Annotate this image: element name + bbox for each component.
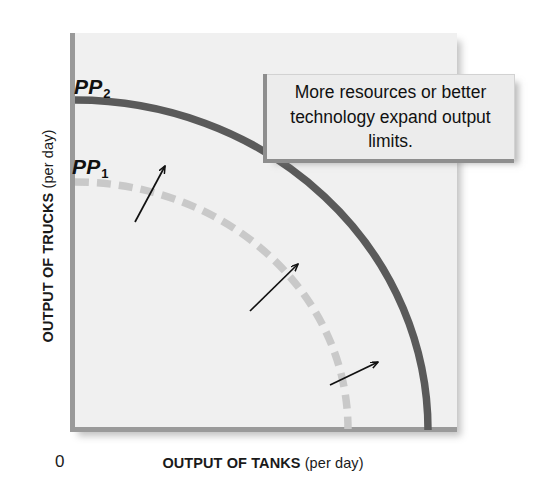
x-axis-unit: (per day) — [305, 455, 364, 471]
curve-pp1 — [75, 182, 348, 429]
ppf-figure: PP2 PP1 More resources or better technol… — [0, 0, 550, 504]
callout-text: More resources or better technology expa… — [267, 80, 514, 155]
x-axis-name: OUTPUT OF TANKS — [162, 455, 300, 471]
y-axis-name: OUTPUT OF TRUCKS — [40, 193, 56, 343]
x-axis-title: OUTPUT OF TANKS (per day) — [133, 455, 393, 471]
origin-label: 0 — [55, 452, 64, 472]
shift-arrow-upper — [135, 166, 165, 222]
shift-arrow-middle — [250, 264, 298, 311]
curve-label-pp1: PP1 — [72, 155, 108, 179]
y-axis-title: OUTPUT OF TRUCKS (per day) — [40, 116, 56, 356]
callout-box: More resources or better technology expa… — [266, 74, 515, 160]
curve-label-pp2: PP2 — [74, 75, 110, 99]
y-axis-unit: (per day) — [40, 130, 56, 189]
